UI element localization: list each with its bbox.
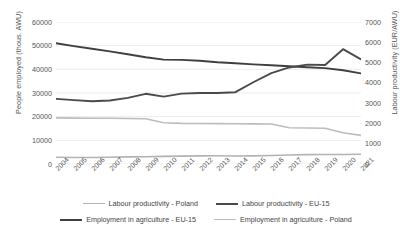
legend-label: Employment in agriculture - Poland [240,215,352,224]
legend-item[interactable]: Employment in agriculture - Poland [214,215,352,224]
legend-swatch-icon [214,219,236,220]
y-tick-right-5000: 5000 [365,58,403,67]
legend-item[interactable]: Labour productivity - EU-15 [216,199,330,208]
series-line-0 [56,43,361,73]
legend-label: Employment in agriculture - EU-15 [86,215,196,224]
legend-label: Labour productivity - Poland [109,199,199,208]
chart-legend: Labour productivity - PolandLabour produ… [0,196,412,232]
y-tick-left-20000: 20000 [14,112,52,121]
legend-item[interactable]: Employment in agriculture - EU-15 [60,215,196,224]
y-tick-right-7000: 7000 [365,18,403,27]
plot-area [56,22,361,164]
y-tick-left-60000: 60000 [14,18,52,27]
chart-container: People employed (thous. AWU) Labour prod… [0,0,412,237]
y-tick-right-6000: 6000 [365,38,403,47]
legend-row-0: Labour productivity - PolandLabour produ… [0,196,412,211]
series-line-2 [56,118,361,136]
y-tick-left-10000: 10000 [14,136,52,145]
chart-svg [56,22,361,164]
legend-label: Labour productivity - EU-15 [242,199,330,208]
series-line-1 [56,49,361,101]
y-tick-right-2000: 2000 [365,119,403,128]
legend-swatch-icon [60,219,82,221]
legend-row-1: Employment in agriculture - EU-15Employm… [0,212,412,227]
legend-swatch-icon [216,203,238,205]
x-axis-labels: 2004200520062007200820092010201120122013… [56,165,361,195]
y-tick-left-40000: 40000 [14,65,52,74]
legend-swatch-icon [83,203,105,204]
y-tick-left-50000: 50000 [14,41,52,50]
legend-item[interactable]: Labour productivity - Poland [83,199,199,208]
y-tick-left-30000: 30000 [14,89,52,98]
y-tick-right-4000: 4000 [365,78,403,87]
y-tick-right-1000: 1000 [365,139,403,148]
y-tick-left-0: 0 [14,160,52,169]
y-tick-right-3000: 3000 [365,99,403,108]
